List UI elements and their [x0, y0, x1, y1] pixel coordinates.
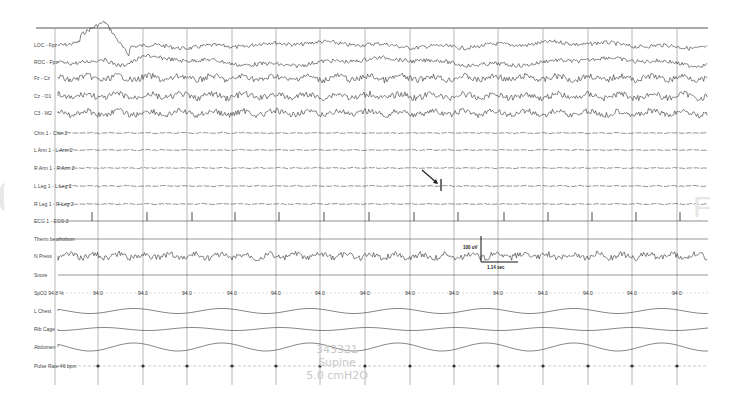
pulse-marker — [675, 364, 678, 367]
eeg-trace — [58, 108, 707, 118]
emg-trace — [58, 167, 707, 168]
emg-trace — [58, 185, 707, 186]
channel-label-therm: Therm beathobum — [34, 236, 75, 242]
pulse-marker — [408, 364, 411, 367]
channel-label-ecg: ECG 1 - ECG 2 — [34, 218, 68, 224]
spo2-value: 94.0 — [627, 290, 637, 296]
calibration-amplitude-label: 100 uV — [463, 245, 478, 250]
channel-label-lleg: L Leg 1 - L Leg 2 — [34, 183, 71, 189]
pulse-marker — [185, 364, 188, 367]
channel-label-roc: ROC - Fpz — [34, 59, 58, 65]
watermark-position: Supine — [292, 357, 382, 369]
nasal-pressure-trace — [58, 251, 707, 261]
eog-roc-trace — [58, 54, 707, 67]
channel-label-loc: LOC - Fpz — [34, 42, 57, 48]
eog-loc-trace — [58, 21, 707, 56]
channel-label-spo2: SpO2 94.8 % — [34, 290, 64, 296]
channel-label-rleg: R Leg 1 - R Leg 2 — [34, 201, 73, 207]
right-edge-artifact-letter: F — [693, 190, 711, 224]
emg-trace — [58, 149, 707, 150]
pulse-marker — [230, 364, 233, 367]
pulse-marker — [496, 364, 499, 367]
spo2-value: 94.0 — [315, 290, 325, 296]
channel-label-ribcage: Rib Cage — [34, 326, 55, 332]
pulse-marker — [630, 364, 633, 367]
channel-label-larm: L Arm 1 - L Arm 2 — [34, 147, 73, 153]
abdomen-effort-trace — [58, 343, 708, 351]
spo2-value: 94.0 — [93, 290, 103, 296]
emg-trace — [58, 132, 707, 133]
channel-label-c3: C3 - M2 — [34, 110, 52, 116]
pulse-marker — [452, 364, 455, 367]
spo2-value: 94.0 — [583, 290, 593, 296]
channel-label-rarm: R Arm 1 - R Arm 2 — [34, 165, 75, 171]
channel-label-npress: N Press — [34, 253, 52, 259]
left-edge-artifact — [0, 183, 14, 211]
watermark-pressure: 5.0 cmH2O — [292, 370, 382, 382]
spo2-value: 94.0 — [493, 290, 503, 296]
channel-label-abdomen: Abdomen — [34, 344, 55, 350]
pulse-marker — [96, 364, 99, 367]
chest-effort-trace — [58, 309, 708, 314]
spo2-value: 94.0 — [271, 290, 281, 296]
pulse-marker — [141, 364, 144, 367]
spo2-value: 94.0 — [360, 290, 370, 296]
spo2-value: 94.0 — [449, 290, 459, 296]
emg-trace — [58, 203, 707, 204]
calibration-time-label: 1.14 sec — [487, 265, 505, 270]
channel-label-lchest: L Chest — [34, 308, 51, 314]
spo2-value: 94.0 — [672, 290, 682, 296]
ribcage-effort-trace — [58, 328, 708, 331]
calibration-bracket — [481, 236, 518, 262]
channel-label-fz: Fz - Cz — [34, 75, 50, 81]
spo2-value: 94.0 — [538, 290, 548, 296]
watermark-id: 343321 — [292, 344, 382, 356]
eeg-trace — [58, 91, 707, 101]
pulse-marker — [586, 364, 589, 367]
spo2-value: 94.0 — [182, 290, 192, 296]
pulse-marker — [541, 364, 544, 367]
spo2-value: 94.0 — [138, 290, 148, 296]
pulse-marker — [274, 364, 277, 367]
channel-label-pulse: Pulse Rate 46 bpm — [34, 363, 77, 369]
spo2-value: 94.0 — [405, 290, 415, 296]
spo2-value: 94.0 — [227, 290, 237, 296]
channel-label-cz: Cz - O1 — [34, 93, 51, 99]
channel-label-chin: Chin 1 - Chin 2 — [34, 130, 67, 136]
eeg-trace — [58, 73, 707, 83]
channel-label-snore: Snore — [34, 272, 47, 278]
